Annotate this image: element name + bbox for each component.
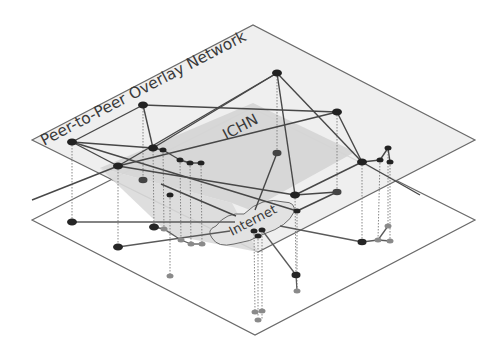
node: [198, 161, 205, 166]
p2p-overlay-diagram: Peer-to-Peer Overlay Network ICHN Intern…: [0, 0, 500, 351]
node: [255, 318, 262, 323]
node: [272, 70, 282, 77]
node: [113, 163, 123, 170]
node: [177, 158, 184, 163]
internet-node: [255, 234, 262, 239]
node: [167, 193, 174, 198]
node: [292, 272, 301, 278]
node: [377, 158, 384, 163]
node: [188, 242, 195, 247]
node: [67, 219, 77, 226]
node: [294, 209, 301, 214]
node: [385, 146, 392, 151]
diagram-canvas: Peer-to-Peer Overlay Network ICHN Intern…: [0, 0, 500, 351]
node: [113, 244, 123, 251]
node: [139, 177, 148, 183]
node: [332, 109, 342, 116]
node: [187, 161, 194, 166]
node: [273, 150, 282, 156]
node: [387, 160, 394, 165]
internet-node: [251, 229, 258, 234]
node: [252, 310, 259, 315]
node: [148, 145, 158, 152]
node: [167, 274, 174, 279]
node: [161, 227, 168, 232]
node: [149, 224, 159, 231]
internet-node: [259, 228, 266, 233]
node: [199, 242, 206, 247]
node: [333, 189, 342, 195]
node: [294, 289, 301, 294]
node: [259, 309, 266, 314]
node: [357, 159, 367, 166]
node: [138, 102, 148, 109]
node: [178, 238, 185, 243]
node: [387, 239, 394, 244]
node: [375, 238, 382, 243]
node: [385, 224, 392, 229]
node: [358, 239, 367, 245]
node: [160, 148, 167, 153]
node: [290, 192, 300, 199]
node: [67, 139, 77, 146]
